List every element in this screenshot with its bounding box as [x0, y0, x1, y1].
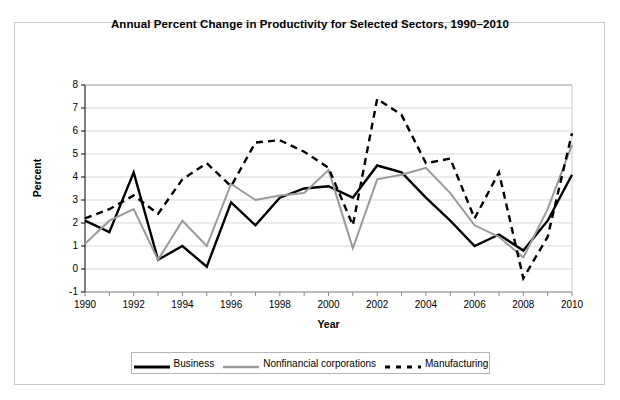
- y-axis-ticks: [81, 85, 85, 292]
- series-line-2: [85, 99, 572, 278]
- legend-swatch-2: [384, 358, 422, 368]
- legend-label: Nonfinancial corporations: [263, 358, 376, 369]
- plot-area: [0, 0, 620, 400]
- chart-legend: BusinessNonfinancial corporationsManufac…: [131, 352, 490, 374]
- legend-swatch-0: [133, 358, 171, 368]
- legend-label: Business: [174, 358, 215, 369]
- series-line-1: [85, 145, 572, 260]
- chart-container: Annual Percent Change in Productivity fo…: [0, 0, 620, 400]
- x-axis-ticks: [85, 292, 572, 296]
- legend-item: Business: [133, 358, 215, 369]
- legend-item: Nonfinancial corporations: [222, 358, 376, 369]
- legend-swatch-1: [222, 358, 260, 368]
- legend-label: Manufacturing: [425, 358, 488, 369]
- series-line-0: [85, 166, 572, 267]
- legend-item: Manufacturing: [384, 358, 488, 369]
